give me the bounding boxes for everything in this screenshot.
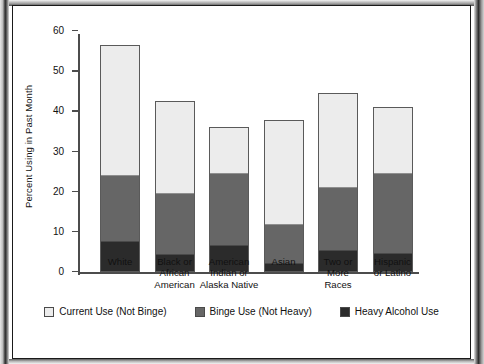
legend-label: Current Use (Not Binge) bbox=[59, 306, 166, 317]
bar-segment-mid bbox=[374, 173, 412, 253]
legend-item: Heavy Alcohol Use bbox=[340, 306, 439, 317]
bar-segment-light bbox=[265, 121, 303, 224]
x-axis-label-line: Hispanic bbox=[363, 256, 423, 267]
stacked-bar bbox=[373, 107, 413, 272]
stacked-bar-chart: Percent Using in Past Month 010203040506… bbox=[13, 6, 470, 358]
figure-border: Percent Using in Past Month 010203040506… bbox=[12, 5, 471, 359]
bar-segment-light bbox=[210, 128, 248, 174]
y-axis-title-text: Percent Using in Past Month bbox=[24, 84, 35, 207]
bar-segment-light bbox=[374, 108, 412, 173]
x-axis-label-line: Black or bbox=[145, 256, 205, 267]
y-axis-tick: 40 bbox=[72, 110, 78, 111]
stacked-bar bbox=[318, 93, 358, 273]
y-axis-tick: 10 bbox=[72, 231, 78, 232]
y-axis-tick: 60 bbox=[72, 30, 78, 31]
bar-segment-mid bbox=[156, 193, 194, 254]
y-axis-tick-label: 50 bbox=[53, 65, 64, 76]
scanned-figure-page: Percent Using in Past Month 010203040506… bbox=[0, 0, 484, 364]
x-axis-label-line: Races bbox=[308, 279, 368, 290]
y-axis-tick-label: 40 bbox=[53, 105, 64, 116]
x-axis-label-line: American bbox=[199, 256, 259, 267]
stacked-bar bbox=[264, 120, 304, 272]
y-axis-tick-label: 0 bbox=[58, 266, 64, 277]
y-axis-tick: 0 bbox=[72, 271, 78, 272]
legend-swatch bbox=[195, 307, 205, 317]
y-axis-tick-label: 60 bbox=[53, 25, 64, 36]
x-axis-label: White bbox=[90, 256, 150, 267]
x-axis-label: Black orAfricanAmerican bbox=[145, 256, 205, 290]
x-axis-label: Asian bbox=[254, 256, 314, 267]
y-axis-tick-label: 20 bbox=[53, 185, 64, 196]
y-axis-tick-label: 10 bbox=[53, 225, 64, 236]
y-axis-title: Percent Using in Past Month bbox=[21, 56, 37, 236]
plot-area: 0102030405060 bbox=[78, 28, 416, 274]
bar-segment-light bbox=[319, 94, 357, 187]
bar-segment-mid bbox=[210, 173, 248, 245]
x-axis-label: Hispanicor Latino bbox=[363, 256, 423, 279]
x-axis-label-line: Indian or bbox=[199, 267, 259, 278]
x-axis-label-line: or Latino bbox=[363, 267, 423, 278]
bar-segment-mid bbox=[319, 187, 357, 250]
y-axis-line bbox=[78, 34, 80, 275]
x-axis-label-line: White bbox=[90, 256, 150, 267]
x-axis-label-line: Asian bbox=[254, 256, 314, 267]
x-axis-label-line: African bbox=[145, 267, 205, 278]
page-edge-shadow-bottom bbox=[9, 359, 474, 364]
y-axis-tick-label: 30 bbox=[53, 145, 64, 156]
stacked-bar bbox=[155, 101, 195, 272]
legend-item: Current Use (Not Binge) bbox=[44, 306, 166, 317]
legend-label: Heavy Alcohol Use bbox=[355, 306, 439, 317]
bar-segment-mid bbox=[101, 175, 139, 241]
page-edge-shadow-left bbox=[0, 0, 9, 364]
x-axis-label-line: American bbox=[145, 279, 205, 290]
x-axis-label-line: Two or bbox=[308, 256, 368, 267]
stacked-bar bbox=[100, 45, 140, 272]
x-axis-label-line: More bbox=[308, 267, 368, 278]
y-axis-tick: 30 bbox=[72, 151, 78, 152]
bar-segment-light bbox=[156, 102, 194, 193]
legend-label: Binge Use (Not Heavy) bbox=[210, 306, 312, 317]
bar-segment-light bbox=[101, 46, 139, 175]
y-axis-tick: 50 bbox=[72, 70, 78, 71]
y-axis-tick: 20 bbox=[72, 191, 78, 192]
legend-item: Binge Use (Not Heavy) bbox=[195, 306, 312, 317]
page-edge-shadow-right bbox=[474, 0, 484, 364]
x-axis-label: AmericanIndian orAlaska Native bbox=[199, 256, 259, 290]
legend-swatch bbox=[44, 307, 54, 317]
legend-swatch bbox=[340, 307, 350, 317]
x-axis-label: Two orMoreRaces bbox=[308, 256, 368, 290]
chart-legend: Current Use (Not Binge)Binge Use (Not He… bbox=[13, 306, 470, 317]
x-axis-label-line: Alaska Native bbox=[199, 279, 259, 290]
stacked-bar bbox=[209, 127, 249, 273]
